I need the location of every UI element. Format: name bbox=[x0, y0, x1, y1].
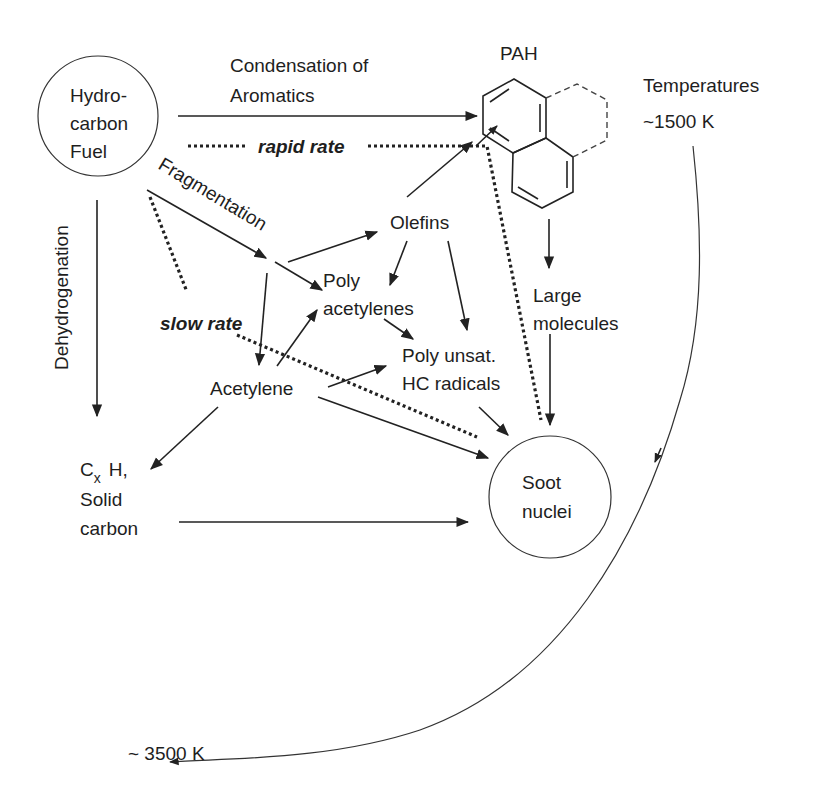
edge-rapid-rate-arrowhead bbox=[476, 126, 497, 146]
soot-label-line1: Soot bbox=[522, 472, 562, 493]
temperatures-label: Temperatures bbox=[643, 75, 759, 96]
polyunsat-label-line1: Poly unsat. bbox=[402, 345, 496, 366]
fuel-label-line2: carbon bbox=[70, 113, 128, 134]
edge-temperature-curve bbox=[170, 146, 700, 762]
edge-olefins-to-polyunsat bbox=[448, 241, 467, 330]
edge-acetylene-to-solid-carbon bbox=[151, 407, 218, 469]
edge-acetylene-to-polyacetylenes bbox=[277, 310, 317, 366]
node-solid-carbon: CxH, Solid carbon bbox=[80, 459, 138, 539]
olefins-label: Olefins bbox=[390, 212, 449, 233]
solid-carbon-label-line1: Solid bbox=[80, 489, 122, 510]
edge-frag-to-polyacetylenes bbox=[275, 262, 322, 290]
polyacetylenes-label-line1: Poly bbox=[323, 270, 360, 291]
edge-slow-rate-top bbox=[150, 197, 187, 292]
node-soot-nuclei: Soot nuclei bbox=[489, 436, 611, 558]
polyacetylenes-label-line2: acetylenes bbox=[323, 298, 414, 319]
edge-olefins-to-polyacetylenes bbox=[390, 241, 407, 285]
polyunsat-label-line2: HC radicals bbox=[402, 373, 500, 394]
node-hydrocarbon-fuel: Hydro- carbon Fuel bbox=[38, 56, 158, 176]
fuel-label-line3: Fuel bbox=[70, 141, 107, 162]
solid-carbon-formula: CxH, bbox=[80, 459, 128, 486]
large-molecules-label-line1: Large bbox=[533, 285, 582, 306]
pah-label: PAH bbox=[500, 43, 538, 64]
edge-olefins-to-pah bbox=[407, 142, 472, 197]
acetylene-label: Acetylene bbox=[210, 378, 293, 399]
large-molecules-label-line2: molecules bbox=[533, 313, 619, 334]
edge-polyunsat-to-soot bbox=[479, 407, 508, 435]
edge-frag-to-olefins bbox=[288, 232, 377, 262]
condensation-label-line2: Aromatics bbox=[230, 85, 314, 106]
soot-label-line2: nuclei bbox=[522, 501, 572, 522]
slow-rate-label: slow rate bbox=[160, 313, 243, 334]
rapid-rate-label: rapid rate bbox=[258, 136, 345, 157]
solid-carbon-label-line2: carbon bbox=[80, 518, 138, 539]
edge-polyacetylenes-to-polyunsat bbox=[384, 319, 413, 339]
dehydrogenation-label: Dehydrogenation bbox=[51, 225, 72, 370]
soot-circle bbox=[489, 436, 611, 558]
pah-molecule-icon bbox=[483, 79, 607, 208]
edge-acetylene-to-polyunsat bbox=[328, 366, 386, 387]
soot-formation-diagram: Hydro- carbon Fuel Condensation of Aroma… bbox=[0, 0, 832, 794]
edge-frag-to-acetylene bbox=[259, 273, 267, 365]
fragmentation-label: Fragmentation bbox=[155, 153, 271, 234]
temperature-high-label: ~ 3500 K bbox=[128, 743, 205, 764]
fuel-label-line1: Hydro- bbox=[70, 85, 127, 106]
condensation-label-line1: Condensation of bbox=[230, 55, 369, 76]
temperature-low-label: ~1500 K bbox=[643, 111, 715, 132]
